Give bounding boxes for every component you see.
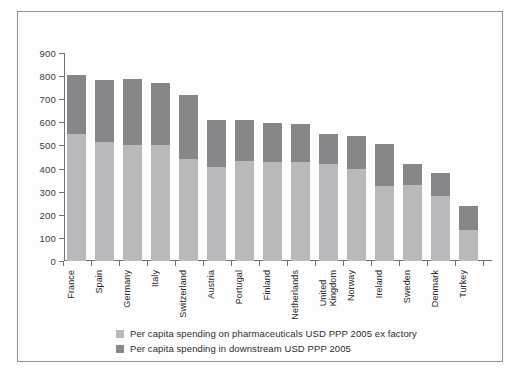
y-axis-tick-label: 700 (40, 94, 56, 105)
legend-label-pharmaceuticals: Per capita spending on pharmaceuticals U… (130, 328, 417, 339)
bar-segment-downstream (179, 95, 198, 160)
y-axis-line (64, 53, 65, 261)
x-axis-label: Italy (151, 270, 170, 287)
bar-spain[interactable]: Spain (95, 80, 114, 261)
y-axis-tick-label: 0 (51, 256, 56, 267)
bar-segment-pharmaceuticals (403, 185, 422, 261)
y-axis-tick-mark (59, 122, 64, 123)
y-axis-tick-mark (59, 192, 64, 193)
bar-segment-downstream (291, 124, 310, 162)
bar-segment-pharmaceuticals (319, 164, 338, 261)
x-axis-tick-mark (455, 261, 456, 266)
bar-norway[interactable]: Norway (347, 136, 366, 261)
bar-finland[interactable]: Finland (263, 123, 282, 261)
bar-segment-downstream (347, 136, 366, 168)
chart-figure-frame: 9008007006005004003002001000 FranceSpain… (17, 11, 503, 362)
x-axis-label: France (67, 270, 86, 299)
x-axis-tick-mark (343, 261, 344, 266)
x-axis-tick-mark (483, 261, 484, 266)
y-axis-tick-mark (59, 145, 64, 146)
bar-segment-pharmaceuticals (95, 142, 114, 261)
bar-segment-pharmaceuticals (179, 159, 198, 261)
bar-segment-pharmaceuticals (459, 230, 478, 261)
legend-item-pharmaceuticals: Per capita spending on pharmaceuticals U… (116, 328, 417, 339)
y-axis-tick-mark (59, 215, 64, 216)
plot-area: 9008007006005004003002001000 FranceSpain… (64, 53, 492, 261)
x-axis-label: Spain (95, 270, 114, 294)
y-axis-tick-label: 500 (40, 140, 56, 151)
x-axis-label: Finland (263, 270, 282, 300)
x-axis-tick-mark (147, 261, 148, 266)
x-axis-tick-mark (91, 261, 92, 266)
bar-segment-downstream (403, 164, 422, 185)
legend-label-downstream: Per capita spending in downstream USD PP… (130, 343, 351, 354)
y-axis-tick-mark (59, 99, 64, 100)
bar-sweden[interactable]: Sweden (403, 164, 422, 261)
y-axis-tick-mark (59, 76, 64, 77)
bar-segment-pharmaceuticals (347, 169, 366, 261)
y-axis-tick-mark (59, 53, 64, 54)
x-axis-tick-mark (231, 261, 232, 266)
x-axis-label: Turkey (459, 270, 478, 298)
y-axis-tick-label: 400 (40, 163, 56, 174)
bar-segment-pharmaceuticals (431, 196, 450, 261)
bar-segment-downstream (319, 134, 338, 164)
bar-segment-pharmaceuticals (151, 145, 170, 261)
bar-segment-downstream (375, 144, 394, 186)
bar-segment-downstream (235, 120, 254, 162)
x-axis-tick-mark (371, 261, 372, 266)
x-axis-label: Norway (347, 270, 366, 301)
bar-france[interactable]: France (67, 75, 86, 261)
x-axis-tick-mark (427, 261, 428, 266)
bar-segment-downstream (431, 173, 450, 196)
legend-swatch-downstream (116, 345, 124, 353)
bar-austria[interactable]: Austria (207, 120, 226, 261)
bar-segment-downstream (67, 75, 86, 134)
y-axis-tick-label: 300 (40, 186, 56, 197)
bar-segment-downstream (151, 83, 170, 145)
bar-switzerland[interactable]: Switzerland (179, 95, 198, 261)
bar-segment-pharmaceuticals (263, 162, 282, 261)
y-axis-tick-mark (59, 238, 64, 239)
legend-item-downstream: Per capita spending in downstream USD PP… (116, 343, 417, 354)
bar-portugal[interactable]: Portugal (235, 120, 254, 261)
y-axis-tick-label: 100 (40, 232, 56, 243)
x-axis-label: Austria (207, 270, 226, 299)
bar-germany[interactable]: Germany (123, 79, 142, 261)
x-axis-label: Switzerland (179, 270, 198, 318)
y-axis-tick-label: 800 (40, 71, 56, 82)
bar-denmark[interactable]: Denmark (431, 173, 450, 261)
x-axis-tick-mark (315, 261, 316, 266)
x-axis-label: Netherlands (291, 270, 310, 320)
x-axis-tick-mark (63, 261, 64, 266)
bar-segment-pharmaceuticals (207, 167, 226, 261)
x-axis-tick-mark (203, 261, 204, 266)
x-axis-tick-mark (175, 261, 176, 266)
y-axis-tick-label: 900 (40, 48, 56, 59)
y-axis-tick-mark (59, 169, 64, 170)
x-axis-tick-mark (287, 261, 288, 266)
x-axis-label: Portugal (235, 270, 254, 304)
x-axis-tick-mark (399, 261, 400, 266)
bar-segment-downstream (207, 120, 226, 168)
bar-segment-pharmaceuticals (123, 145, 142, 261)
bar-segment-pharmaceuticals (375, 186, 394, 261)
bar-turkey[interactable]: Turkey (459, 206, 478, 261)
x-axis-label: United Kingdom (319, 270, 338, 306)
x-axis-label: Denmark (431, 270, 450, 307)
x-axis-label: Germany (123, 270, 142, 308)
x-axis-tick-mark (119, 261, 120, 266)
bar-segment-pharmaceuticals (67, 134, 86, 261)
legend-swatch-pharmaceuticals (116, 330, 124, 338)
x-axis-label: Ireland (375, 270, 394, 298)
x-axis-label: Sweden (403, 270, 422, 303)
bar-segment-downstream (459, 206, 478, 230)
bar-united-kingdom[interactable]: United Kingdom (319, 134, 338, 261)
bar-segment-downstream (95, 80, 114, 142)
y-axis-tick-label: 600 (40, 117, 56, 128)
chart-legend: Per capita spending on pharmaceuticals U… (116, 328, 417, 354)
bar-ireland[interactable]: Ireland (375, 144, 394, 261)
bar-netherlands[interactable]: Netherlands (291, 124, 310, 262)
bar-italy[interactable]: Italy (151, 83, 170, 261)
bar-segment-downstream (123, 79, 142, 145)
